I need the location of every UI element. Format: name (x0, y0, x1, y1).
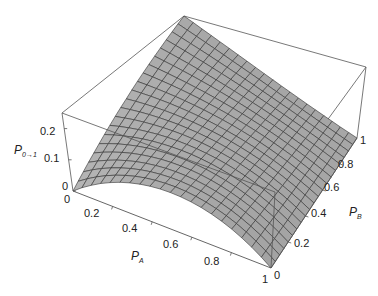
z-tick-label: 0.2 (40, 126, 55, 137)
y-axis-title: PB (349, 206, 362, 220)
y-tick-label: 0.6 (324, 182, 339, 193)
x-tick-label: 1 (262, 274, 268, 285)
surface-mesh (73, 16, 357, 268)
y-tick-label: 0 (274, 270, 280, 281)
y-tick-label: 0.8 (338, 159, 353, 170)
z-tick-label: 0.1 (44, 153, 59, 164)
x-tick-label: 0.4 (122, 223, 137, 234)
y-tick-label: 0.2 (294, 238, 309, 249)
y-tick-label: 0.4 (311, 208, 326, 219)
x-tick-label: 0.8 (204, 256, 219, 267)
z-tick-label: 0 (62, 181, 68, 192)
x-tick-label: 0 (64, 194, 70, 205)
x-tick-label: 0.6 (163, 239, 178, 250)
x-axis-title: PA (131, 250, 144, 264)
y-tick-label: 1 (360, 135, 366, 146)
surface-plot (0, 0, 378, 296)
z-axis-title: P0→1 (14, 144, 37, 158)
x-tick-label: 0.2 (84, 208, 99, 219)
